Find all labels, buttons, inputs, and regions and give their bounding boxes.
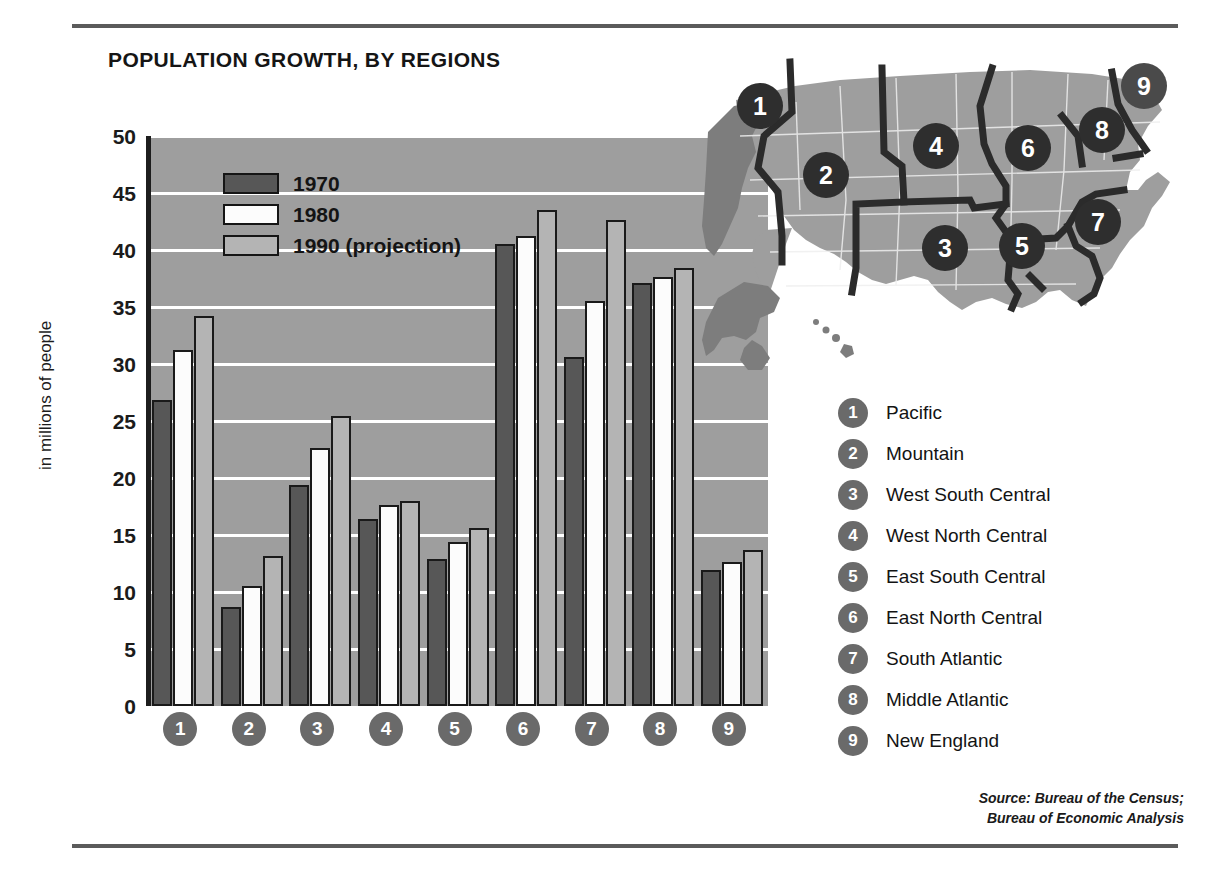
y-axis-tick-label: 45	[78, 183, 136, 204]
y-axis-tick-label: 0	[78, 696, 136, 717]
bar	[289, 485, 309, 706]
bar	[310, 448, 330, 706]
region-name-label: Pacific	[886, 402, 942, 424]
bar	[743, 550, 763, 706]
region-number-badge: 2	[838, 439, 868, 469]
x-axis-marker-4: 4	[369, 712, 403, 746]
map-marker-6: 6	[1005, 125, 1051, 171]
region-number-badge: 6	[838, 603, 868, 633]
chart-legend: 197019801990 (projection)	[223, 168, 461, 261]
region-name-label: Middle Atlantic	[886, 689, 1009, 711]
source-line-1: Source: Bureau of the Census;	[838, 788, 1184, 808]
region-name-label: West South Central	[886, 484, 1050, 506]
top-divider-rule	[72, 24, 1178, 28]
region-number-badge: 9	[838, 726, 868, 756]
bar	[221, 607, 241, 706]
map-marker-8: 8	[1079, 107, 1125, 153]
x-axis-marker-7: 7	[575, 712, 609, 746]
svg-text:5: 5	[1015, 232, 1029, 260]
region-key-item: 7South Atlantic	[838, 638, 1188, 679]
x-axis-marker-3: 3	[300, 712, 334, 746]
map-marker-3: 3	[922, 225, 968, 271]
region-key-item: 3West South Central	[838, 474, 1188, 515]
map-graphic: 1 2 3 4 5	[700, 40, 1200, 400]
svg-text:9: 9	[1137, 72, 1151, 100]
bar	[516, 236, 536, 706]
bar	[173, 350, 193, 706]
legend-swatch-y1970	[223, 173, 279, 194]
bar	[564, 357, 584, 706]
source-note: Source: Bureau of the Census; Bureau of …	[838, 788, 1184, 829]
svg-text:4: 4	[929, 132, 943, 160]
legend-label: 1980	[293, 203, 340, 227]
bar-group	[495, 136, 557, 706]
x-axis-marker-2: 2	[232, 712, 266, 746]
region-name-label: East South Central	[886, 566, 1045, 588]
bar	[194, 316, 214, 706]
region-key-item: 6East North Central	[838, 597, 1188, 638]
svg-text:1: 1	[753, 92, 767, 120]
y-axis-tick-label: 10	[78, 582, 136, 603]
bar-group	[564, 136, 626, 706]
bar	[701, 570, 721, 706]
bar	[495, 244, 515, 706]
region-name-label: Mountain	[886, 443, 964, 465]
region-name-label: West North Central	[886, 525, 1047, 547]
map-marker-4: 4	[913, 123, 959, 169]
bar	[537, 210, 557, 706]
map-marker-9: 9	[1121, 63, 1167, 109]
region-name-label: New England	[886, 730, 999, 752]
legend-swatch-y1990	[223, 235, 279, 256]
chart-plot-area: 197019801990 (projection)	[146, 136, 768, 706]
bar	[152, 400, 172, 706]
svg-text:2: 2	[819, 161, 833, 189]
region-number-badge: 7	[838, 644, 868, 674]
legend-item: 1990 (projection)	[223, 230, 461, 261]
bar	[674, 268, 694, 706]
region-key-item: 1Pacific	[838, 392, 1188, 433]
x-axis-category-markers: 123456789	[146, 712, 768, 764]
region-key-item: 9New England	[838, 720, 1188, 761]
map-marker-5: 5	[999, 223, 1045, 269]
region-key-item: 2Mountain	[838, 433, 1188, 474]
region-number-badge: 3	[838, 480, 868, 510]
y-axis-tick-label: 25	[78, 411, 136, 432]
us-regions-map: 1 2 3 4 5	[700, 40, 1200, 400]
x-axis-marker-8: 8	[643, 712, 677, 746]
map-marker-7: 7	[1075, 199, 1121, 245]
svg-text:3: 3	[938, 234, 952, 262]
source-line-2: Bureau of Economic Analysis	[838, 808, 1184, 828]
legend-label: 1970	[293, 172, 340, 196]
y-axis-tick-label: 50	[78, 126, 136, 147]
x-axis-marker-6: 6	[506, 712, 540, 746]
bar	[469, 528, 489, 706]
region-number-badge: 8	[838, 685, 868, 715]
map-marker-2: 2	[803, 152, 849, 198]
region-key-item: 5East South Central	[838, 556, 1188, 597]
bar	[448, 542, 468, 706]
region-key-list: 1Pacific2Mountain3West South Central4Wes…	[838, 392, 1188, 761]
bar	[358, 519, 378, 706]
bar	[400, 501, 420, 706]
svg-text:7: 7	[1091, 208, 1105, 236]
bar	[263, 556, 283, 706]
region-key-item: 8Middle Atlantic	[838, 679, 1188, 720]
region-number-badge: 1	[838, 398, 868, 428]
y-axis-tick-label: 35	[78, 297, 136, 318]
y-axis-tick-label: 30	[78, 354, 136, 375]
x-axis-marker-9: 9	[712, 712, 746, 746]
bar	[585, 301, 605, 706]
bar	[722, 562, 742, 706]
infographic-page: POPULATION GROWTH, BY REGIONS in million…	[0, 0, 1219, 878]
bar	[606, 220, 626, 706]
bar-group	[152, 136, 214, 706]
y-axis-title: in millions of people	[36, 321, 56, 470]
bar-group	[632, 136, 694, 706]
bar	[379, 505, 399, 706]
region-number-badge: 5	[838, 562, 868, 592]
region-name-label: South Atlantic	[886, 648, 1002, 670]
bar	[632, 283, 652, 706]
svg-text:8: 8	[1095, 116, 1109, 144]
legend-label: 1990 (projection)	[293, 234, 461, 258]
legend-item: 1980	[223, 199, 461, 230]
